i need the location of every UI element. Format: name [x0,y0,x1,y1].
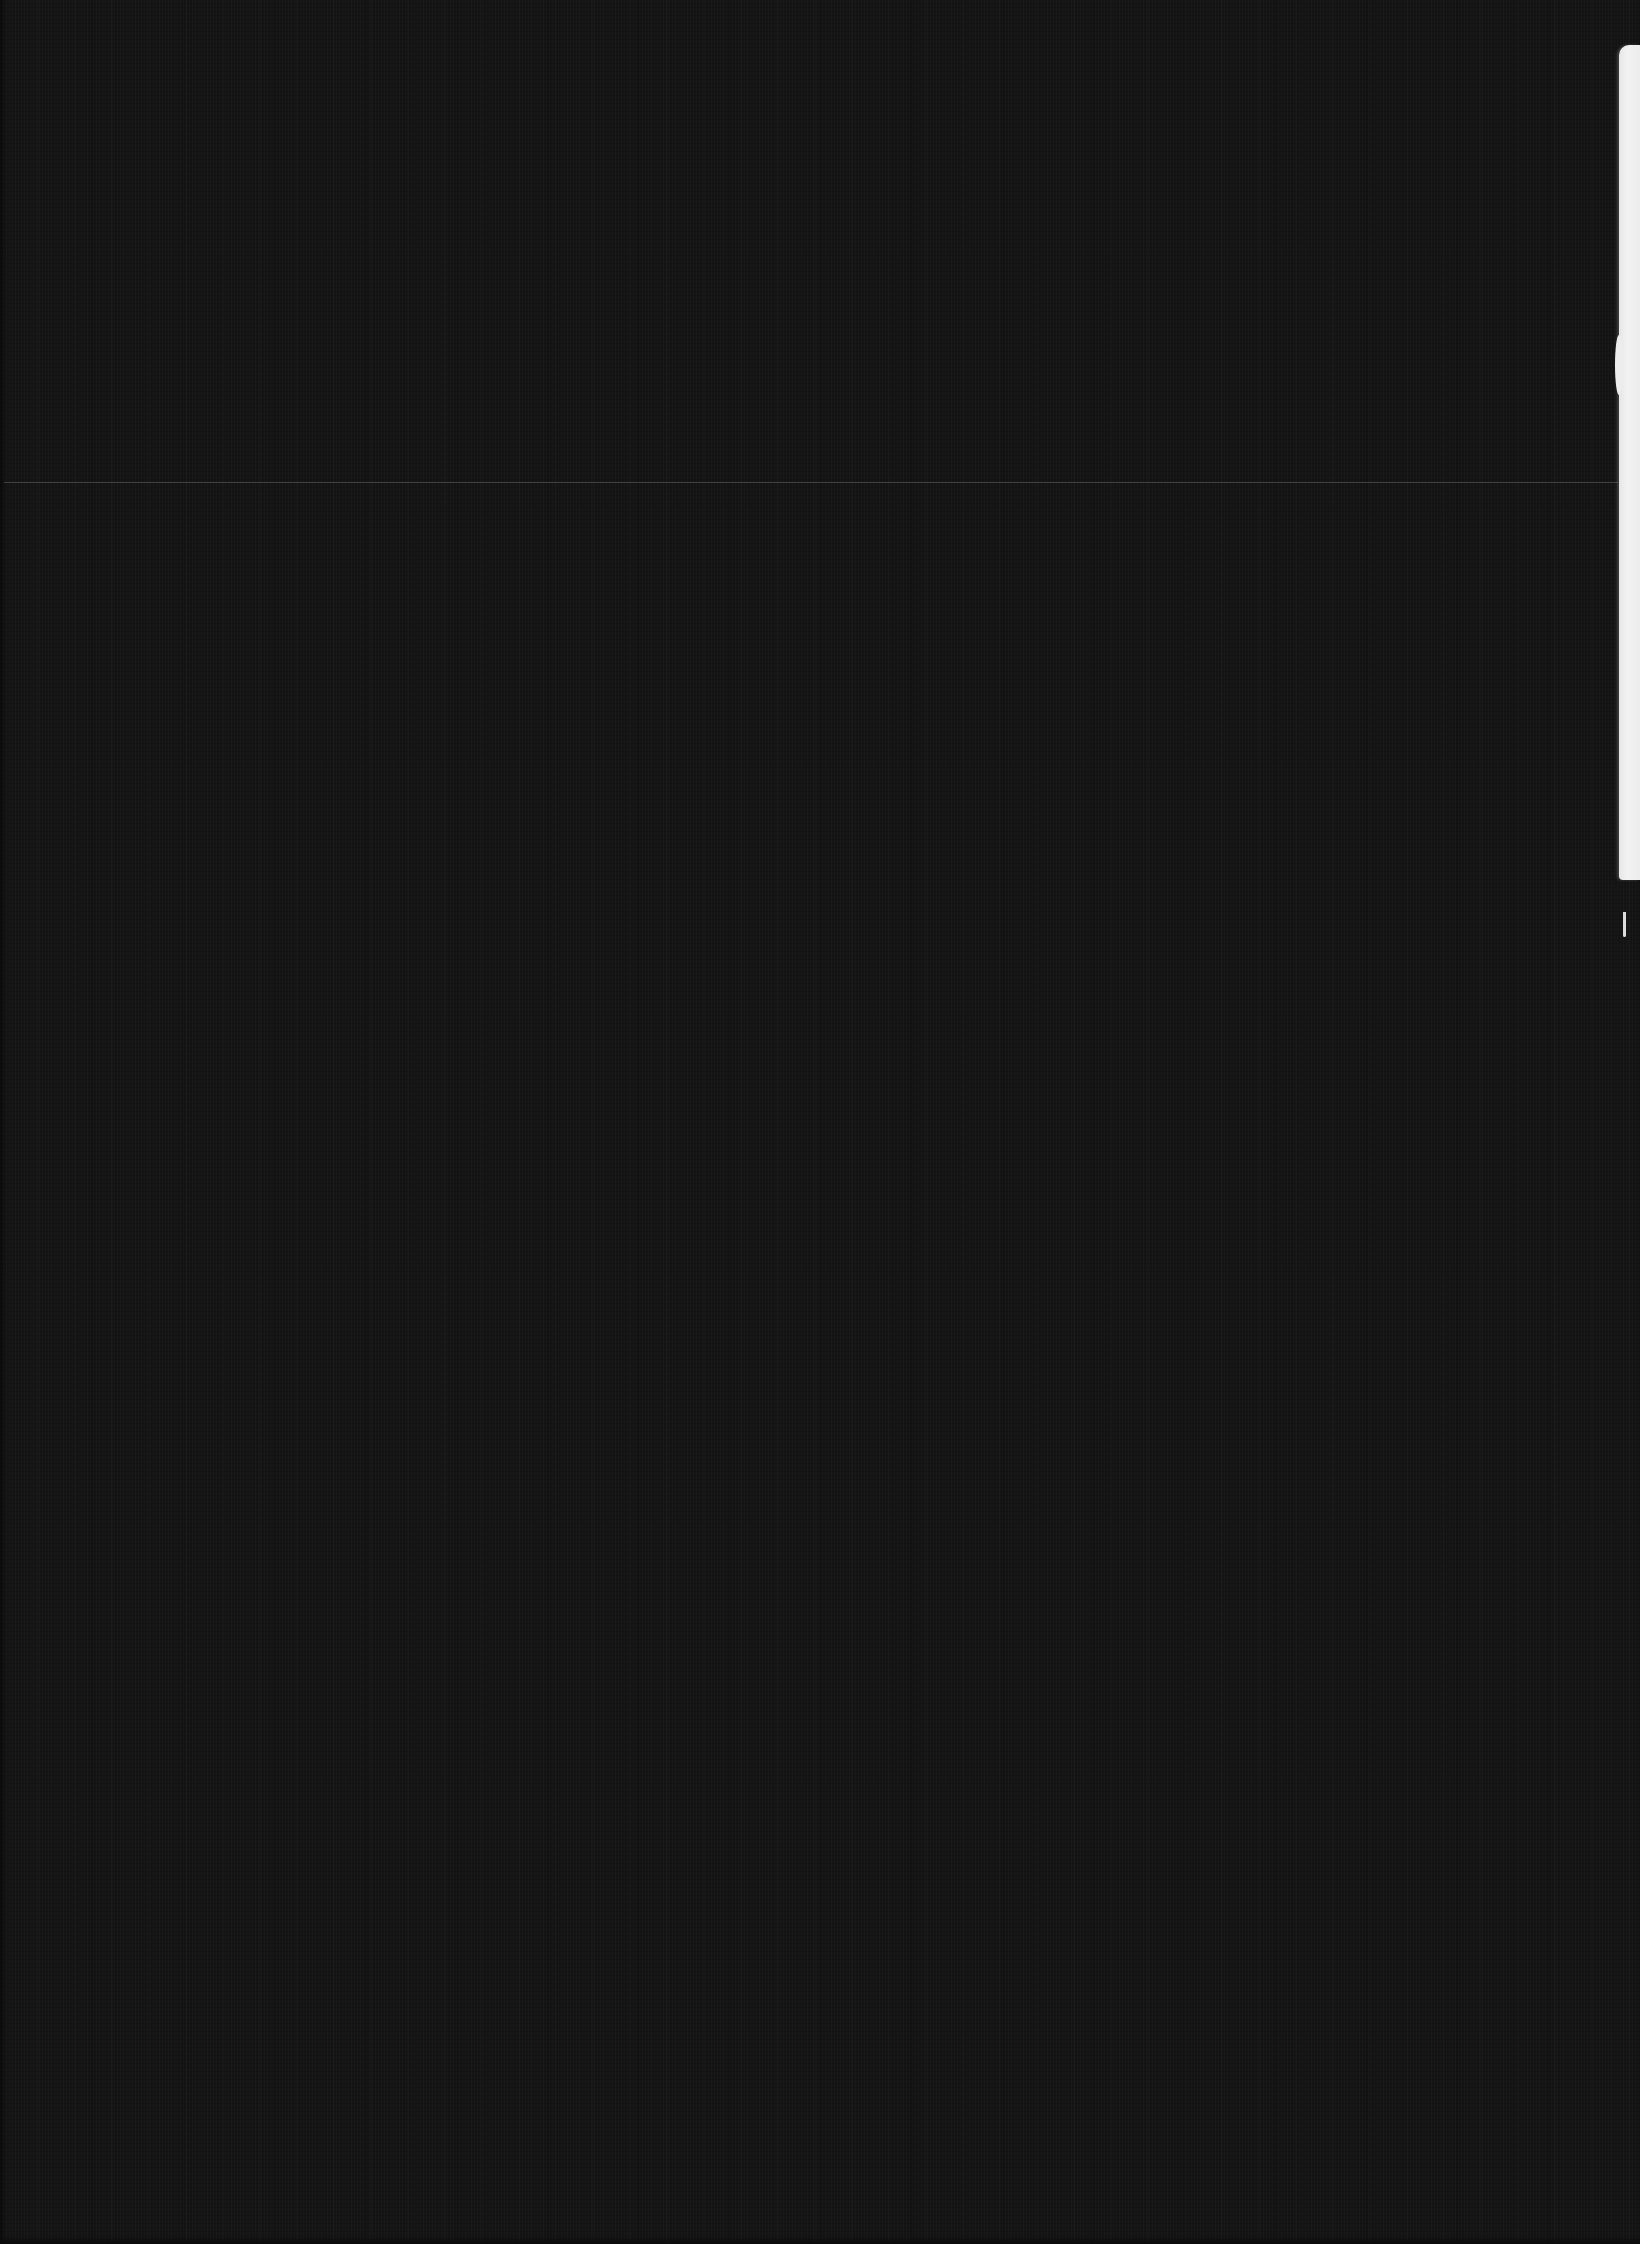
left-edge-shadow [0,0,6,2244]
bottom-edge-shadow [0,2236,1640,2244]
paper-edge-strip [1619,45,1640,880]
paper-edge-tail [1623,912,1626,937]
horizontal-seam-line [4,482,1618,483]
scanned-page-surface [0,0,1640,2244]
